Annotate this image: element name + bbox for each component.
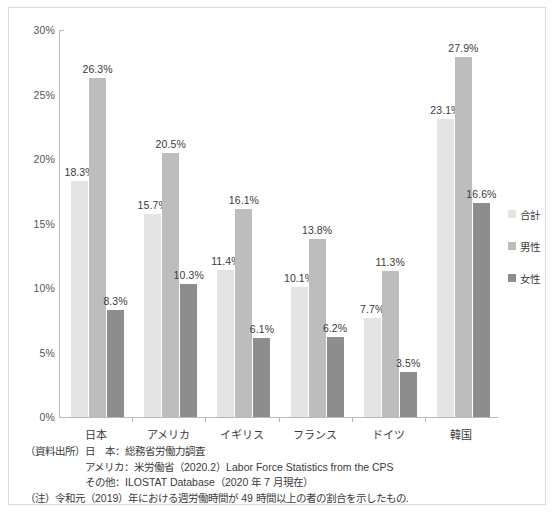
x-axis-label: 韓国 <box>425 426 498 442</box>
x-axis-label: アメリカ <box>132 426 205 442</box>
bar-value-label: 13.8% <box>302 224 332 236</box>
y-tick-label: 10% <box>17 282 55 294</box>
legend-label: 男性 <box>520 239 540 254</box>
legend-item[interactable]: 女性 <box>508 272 556 284</box>
bar: 16.6% <box>473 203 490 417</box>
y-axis-cap <box>59 417 64 418</box>
chart-frame: 0%5%10%15%20%25%30% 18.3%26.3%8.3%15.7%2… <box>8 7 546 505</box>
bar: 3.5% <box>400 372 417 417</box>
bar-value-label: 8.3% <box>103 295 127 307</box>
source-label: （資料出所） <box>25 444 85 460</box>
x-axis-tick <box>352 417 353 422</box>
bar: 23.1% <box>437 119 454 417</box>
source-text-1: アメリカ：米労働省（2020.2）Labor Force Statistics … <box>85 460 394 476</box>
plot-area: 0%5%10%15%20%25%30% 18.3%26.3%8.3%15.7%2… <box>59 30 498 418</box>
x-axis-tick <box>132 417 133 422</box>
bar: 16.1% <box>235 209 252 417</box>
legend-item[interactable]: 男性 <box>508 240 556 252</box>
legend-swatch-icon <box>508 274 516 282</box>
bar-value-label: 6.2% <box>323 322 347 334</box>
legend-swatch-icon <box>508 242 516 250</box>
y-tick-label: 5% <box>17 347 55 359</box>
source-row-2: その他：ILOSTAT Database（2020 年 7 月現在） <box>25 475 535 491</box>
bar-value-label: 27.9% <box>448 42 478 54</box>
bar-value-label: 26.3% <box>82 63 112 75</box>
x-axis-label: フランス <box>279 426 352 442</box>
y-tick-label: 15% <box>17 218 55 230</box>
bar-value-label: 11.3% <box>376 256 406 268</box>
bar: 11.3% <box>382 271 399 417</box>
y-tick-label: 20% <box>17 153 55 165</box>
x-axis-tick <box>279 417 280 422</box>
source-row-0: （資料出所） 日 本：総務省労働力調査 <box>25 444 535 460</box>
y-axis-cap <box>59 30 64 31</box>
bar-value-label: 3.5% <box>396 357 420 369</box>
y-tick-label: 0% <box>17 411 55 423</box>
x-axis-label: ドイツ <box>352 426 425 442</box>
bar: 18.3% <box>71 181 88 417</box>
bar: 8.3% <box>107 310 124 417</box>
bar: 6.2% <box>327 337 344 417</box>
source-text-2: その他：ILOSTAT Database（2020 年 7 月現在） <box>85 475 313 491</box>
x-axis-label: イギリス <box>205 426 278 442</box>
bar-value-label: 16.6% <box>466 188 496 200</box>
x-axis-tick <box>205 417 206 422</box>
note-text: 令和元（2019）年における週労働時間が 49 時間以上の者の割合を示したもの. <box>55 491 409 507</box>
bar-value-label: 16.1% <box>229 194 259 206</box>
bar: 20.5% <box>162 153 179 417</box>
legend-item[interactable]: 合計 <box>508 208 556 220</box>
y-tick-label: 25% <box>17 89 55 101</box>
legend-label: 合計 <box>520 207 540 222</box>
x-axis-tick <box>425 417 426 422</box>
y-axis-line <box>59 30 60 418</box>
bar: 6.1% <box>253 338 270 417</box>
note-label: （注） <box>25 491 55 507</box>
y-tick-label: 30% <box>17 24 55 36</box>
chart-legend: 合計男性女性 <box>508 208 556 304</box>
bar: 7.7% <box>364 318 381 417</box>
source-indent-2 <box>25 475 85 491</box>
source-text-0: 日 本：総務省労働力調査 <box>85 444 205 460</box>
source-indent-1 <box>25 460 85 476</box>
bar: 27.9% <box>455 57 472 417</box>
note-row: （注） 令和元（2019）年における週労働時間が 49 時間以上の者の割合を示し… <box>25 491 535 507</box>
bar-value-label: 6.1% <box>250 323 274 335</box>
legend-label: 女性 <box>520 271 540 286</box>
bar: 26.3% <box>89 78 106 417</box>
footnotes: （資料出所） 日 本：総務省労働力調査 アメリカ：米労働省（2020.2）Lab… <box>25 444 535 506</box>
legend-swatch-icon <box>508 210 516 218</box>
bar: 15.7% <box>144 214 161 417</box>
bar-value-label: 20.5% <box>156 138 186 150</box>
x-axis-label: 日本 <box>59 426 132 442</box>
bar-value-label: 10.3% <box>174 269 204 281</box>
bar: 11.4% <box>217 270 234 417</box>
bar: 10.1% <box>291 287 308 417</box>
source-row-1: アメリカ：米労働省（2020.2）Labor Force Statistics … <box>25 460 535 476</box>
bar: 10.3% <box>180 284 197 417</box>
